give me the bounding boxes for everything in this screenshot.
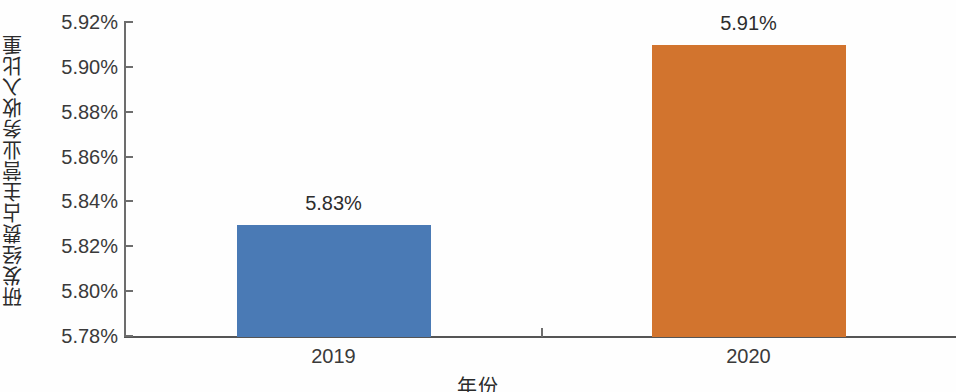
y-axis-tick-label: 5.88% xyxy=(32,100,118,123)
bar-2020 xyxy=(652,45,846,337)
x-axis-title: 年份 xyxy=(0,371,956,392)
bar-2019 xyxy=(237,225,431,337)
bar-value-label-2020: 5.91% xyxy=(720,12,777,35)
y-axis-tick-label: 5.92% xyxy=(32,11,118,34)
y-axis-tick-label: 5.82% xyxy=(32,235,118,258)
bar-chart: 研发经费占主营业务收入比重 5.92%5.90%5.88%5.86%5.84%5… xyxy=(0,0,956,392)
y-axis-tick-label: 5.78% xyxy=(32,325,118,348)
x-axis-tick-label-2019: 2019 xyxy=(311,345,356,368)
y-axis-title: 研发经费占主营业务收入比重 xyxy=(0,0,26,340)
y-axis-tick-label: 5.84% xyxy=(32,190,118,213)
y-axis-title-text: 研发经费占主营业务收入比重 xyxy=(3,34,23,307)
bar-value-label-2019: 5.83% xyxy=(305,192,362,215)
y-axis-tick-label: 5.86% xyxy=(32,145,118,168)
x-axis-tick-label-2020: 2020 xyxy=(726,345,771,368)
plot-area: 5.83%5.91% xyxy=(126,22,956,337)
y-axis-tick-label: 5.80% xyxy=(32,280,118,303)
y-axis-tick-label: 5.90% xyxy=(32,55,118,78)
y-axis-tick-labels: 5.92%5.90%5.88%5.86%5.84%5.82%5.80%5.78% xyxy=(26,0,118,392)
